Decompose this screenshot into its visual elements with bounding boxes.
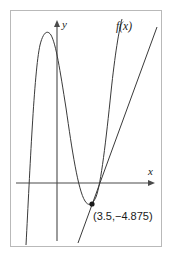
y-axis-label: y — [62, 19, 67, 30]
figure-container: y x f(x) (3.5,−4.875) — [0, 0, 173, 263]
function-label: f(x) — [116, 21, 132, 33]
x-axis-label: x — [148, 166, 153, 177]
axes-group — [16, 26, 149, 241]
markers-group — [89, 201, 94, 206]
tangent-point-marker — [89, 201, 94, 206]
tangent-point-label: (3.5,−4.875) — [93, 211, 153, 222]
graph-canvas — [0, 0, 173, 263]
